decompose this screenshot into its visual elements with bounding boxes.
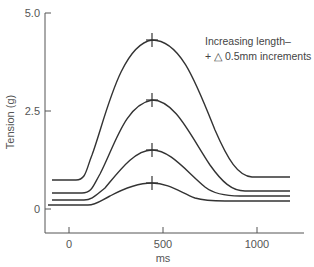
curves [48, 40, 290, 205]
annotation-line-2: + △ 0.5mm increments [205, 50, 311, 62]
tension-chart: 5.0 2.5 0 0 500 1000 ms Tension (g) Incr… [0, 0, 314, 267]
y-tick-label: 0 [34, 203, 40, 215]
y-tick-label: 5.0 [25, 7, 40, 19]
curve-series-3 [52, 100, 290, 193]
peak-markers [146, 33, 158, 190]
annotation-line-1: Increasing length– [205, 35, 291, 47]
x-ticks [69, 227, 257, 233]
curve-series-1 [48, 183, 290, 205]
x-tick-label: 500 [154, 238, 172, 250]
y-ticks [45, 13, 51, 209]
x-axis-label: ms [156, 252, 171, 264]
y-tick-label: 2.5 [25, 105, 40, 117]
x-tick-label: 1000 [245, 238, 269, 250]
x-tick-label: 0 [66, 238, 72, 250]
y-axis-label: Tension (g) [4, 95, 16, 149]
